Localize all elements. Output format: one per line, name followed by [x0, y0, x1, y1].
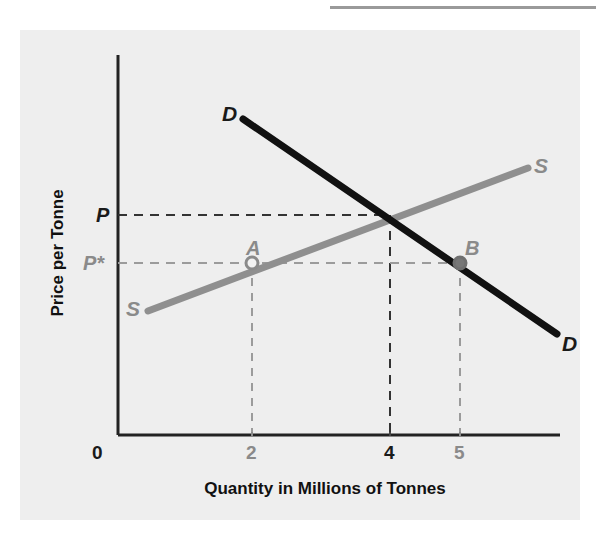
price-equilibrium-label: P: [96, 205, 109, 225]
demand-label-bottom: D: [562, 333, 577, 354]
supply-demand-plot: [0, 0, 602, 550]
y-axis-title: Price per Tonne: [48, 158, 68, 348]
supply-label-bottom: S: [126, 298, 140, 319]
x-axis-title: Quantity in Millions of Tonnes: [100, 479, 550, 499]
point-a-label: A: [246, 238, 260, 258]
demand-curve: [243, 119, 557, 334]
price-ceiling-label: P*: [83, 253, 104, 273]
price-ceiling-guides: [118, 263, 460, 432]
x-tick-label-4: 4: [384, 443, 395, 462]
axis-lines: [118, 55, 560, 435]
x-tick-label-5: 5: [454, 443, 465, 462]
point-b-label: B: [465, 238, 479, 258]
x-tick-label-2: 2: [246, 443, 257, 462]
origin-label: 0: [92, 443, 103, 462]
supply-label-top: S: [534, 155, 548, 176]
demand-label-top: D: [222, 103, 237, 124]
